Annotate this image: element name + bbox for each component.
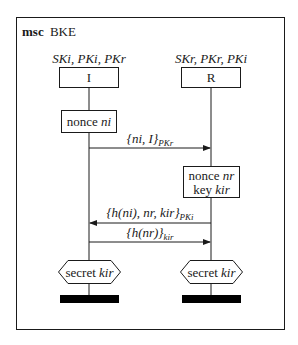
instance-end-i [60, 295, 119, 303]
svg-text:nonce nr: nonce nr [189, 168, 236, 183]
svg-text:{h(ni), nr, kir}PKi: {h(ni), nr, kir}PKi [106, 205, 194, 222]
instance-head-i: I [60, 68, 119, 88]
svg-text:{ni, I}PKr: {ni, I}PKr [127, 131, 174, 148]
action-nonce-ni: nonce ni [62, 111, 117, 133]
message-3-subscript: kir [164, 232, 174, 242]
action-label: key [193, 182, 215, 197]
action-var: ni [101, 114, 112, 129]
instance-i-name: I [87, 70, 91, 85]
msc-diagram: msc BKE SKi, PKi, PKr SKr, PKr, PKi I R … [0, 0, 298, 345]
claim-label: secret [65, 265, 99, 280]
action-label: nonce [189, 168, 223, 183]
svg-text:secret kir: secret kir [187, 265, 236, 280]
message-3-body: {h(nr)} [126, 225, 164, 240]
instance-r-knowledge: SKr, PKr, PKi [175, 51, 248, 66]
action-var: nr [223, 168, 236, 183]
svg-text:nonce ni: nonce ni [67, 114, 112, 129]
svg-text:secret kir: secret kir [65, 265, 114, 280]
instance-r-name: R [207, 70, 216, 85]
instance-head-r: R [182, 68, 241, 88]
message-1-body: {ni, I} [127, 131, 159, 146]
claim-secret-i: secret kir [59, 261, 121, 284]
svg-text:{h(nr)}kir: {h(nr)}kir [126, 225, 174, 242]
claim-secret-r: secret kir [181, 261, 243, 284]
message-1-subscript: PKr [157, 138, 174, 148]
msc-keyword: msc [22, 24, 44, 39]
instance-end-r [182, 295, 241, 303]
message-2: {h(ni), nr, kir}PKi [90, 205, 211, 223]
claim-var: kir [221, 265, 236, 280]
message-3: {h(nr)}kir [89, 225, 210, 242]
message-1: {ni, I}PKr [89, 131, 210, 148]
msc-name: BKE [50, 24, 76, 39]
claim-var: kir [99, 265, 114, 280]
message-2-subscript: PKi [179, 212, 195, 222]
instance-i-knowledge: SKi, PKi, PKr [52, 51, 127, 66]
msc-title: msc BKE [22, 24, 76, 39]
claim-label: secret [187, 265, 221, 280]
svg-text:key kir: key kir [193, 182, 230, 197]
action-label: nonce [67, 114, 101, 129]
message-2-body: {h(ni), nr, kir} [106, 205, 180, 220]
action-var: kir [215, 182, 230, 197]
action-nonce-nr-key-kir: nonce nr key kir [184, 167, 240, 198]
